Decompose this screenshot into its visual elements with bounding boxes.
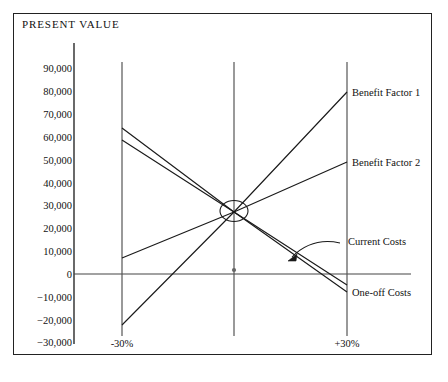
x-tick-minus-30: -30%: [111, 338, 134, 349]
y-tick-50000: 50,000: [26, 155, 72, 166]
y-tick-minus-20000: −20,000: [26, 315, 72, 326]
y-tick-30000: 30,000: [26, 200, 72, 211]
series-label-benefit-factor-1: Benefit Factor 1: [352, 87, 420, 98]
y-axis-tick-labels: 90,000 80,000 70,000 60,000 50,000 40,00…: [26, 0, 72, 382]
series-label-current-costs: Current Costs: [348, 236, 406, 247]
y-tick-60000: 60,000: [26, 132, 72, 143]
y-tick-minus-10000: −10,000: [26, 292, 72, 303]
y-tick-40000: 40,000: [26, 178, 72, 189]
y-tick-70000: 70,000: [26, 109, 72, 120]
origin-dot: [232, 268, 236, 272]
series-label-one-off-costs: One-off Costs: [352, 287, 411, 298]
chart-root: PRESENT VALUE 90,000 80,000 70,000 60,00…: [0, 0, 448, 382]
y-tick-80000: 80,000: [26, 86, 72, 97]
y-tick-0: 0: [26, 269, 72, 280]
y-tick-minus-30000: −30,000: [26, 337, 72, 348]
y-tick-90000: 90,000: [26, 63, 72, 74]
annotation-arrow-head: [288, 254, 297, 261]
x-tick-plus-30: +30%: [334, 338, 359, 349]
y-tick-20000: 20,000: [26, 223, 72, 234]
series-label-benefit-factor-2: Benefit Factor 2: [352, 157, 420, 168]
y-tick-10000: 10,000: [26, 246, 72, 257]
